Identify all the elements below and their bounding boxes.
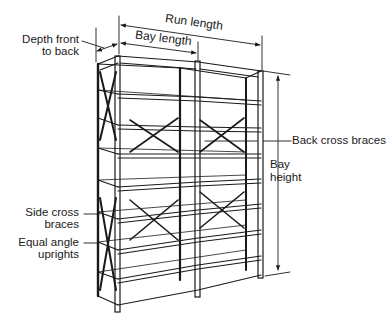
depth-arrow: [97, 44, 117, 51]
shelving-unit: [98, 56, 263, 312]
equal-angle-uprights-label-line2: uprights: [38, 248, 79, 261]
back-cross-braces-label: Back cross braces: [292, 134, 386, 147]
back-cross-braces: [130, 118, 244, 240]
bay-height-label-line2: height: [270, 171, 301, 184]
bay-height-label-line1: Bay: [270, 158, 290, 171]
depth-label-line2: to back: [42, 45, 79, 58]
side-cross-braces-label-line2: braces: [44, 218, 79, 231]
